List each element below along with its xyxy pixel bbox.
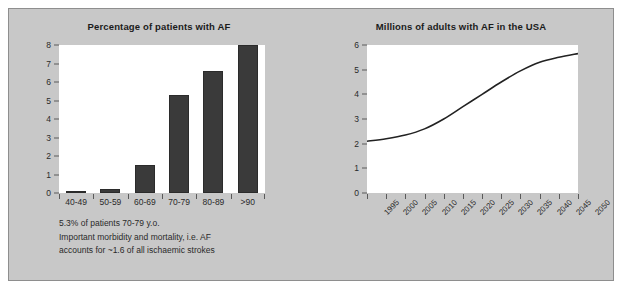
bar-chart-title: Percentage of patients with AF bbox=[9, 21, 309, 32]
line-curve bbox=[367, 54, 578, 142]
line-chart-y-tick-label: 6 bbox=[345, 40, 359, 50]
bar-70-79 bbox=[169, 95, 189, 193]
line-chart-x-tick-label: 1995 bbox=[382, 198, 401, 217]
bar-chart-x-tick-label: 80-89 bbox=[196, 195, 230, 211]
bar-80-89 bbox=[203, 71, 223, 193]
caption-line-1: 5.3% of patients 70-79 y.o. bbox=[59, 217, 299, 231]
bar-chart-plot-area bbox=[59, 45, 265, 193]
bar-chart-y-tick-label: 4 bbox=[37, 114, 51, 124]
line-chart-x-tick bbox=[540, 194, 541, 199]
line-chart-x-tick bbox=[463, 194, 464, 199]
line-chart-x-tick-label: 2000 bbox=[401, 198, 420, 217]
line-chart-x-axis-labels: 1995200020052010201520202025203020352040… bbox=[367, 194, 578, 195]
line-chart-x-tick-label: 2050 bbox=[593, 198, 612, 217]
line-chart-x-tick-label: 2015 bbox=[459, 198, 478, 217]
line-chart-block: Millions of adults with AF in the USA 01… bbox=[307, 9, 615, 282]
bar-chart-x-tick-label: 40-49 bbox=[59, 195, 93, 211]
bar-chart-y-tick-label: 6 bbox=[37, 77, 51, 87]
line-chart-y-tick-label: 4 bbox=[345, 89, 359, 99]
line-chart-x-tick bbox=[425, 194, 426, 199]
line-series bbox=[367, 45, 578, 193]
bar-chart-x-axis-labels: 40-4950-5960-6970-7980-89>90 bbox=[59, 195, 265, 211]
line-chart-y-tick-label: 2 bbox=[345, 139, 359, 149]
line-chart-x-tick bbox=[386, 194, 387, 199]
line-chart-y-tick-label: 0 bbox=[345, 188, 359, 198]
bar-40-49 bbox=[66, 191, 86, 193]
caption-line-2: Important morbidity and mortality, i.e. … bbox=[59, 231, 299, 245]
line-chart-x-tick bbox=[444, 194, 445, 199]
line-chart-y-tick-label: 5 bbox=[345, 65, 359, 75]
line-chart-x-tick-label: 2005 bbox=[421, 198, 440, 217]
line-chart-x-tick-label: 2045 bbox=[574, 198, 593, 217]
bar-chart-block: Percentage of patients with AF 012345678… bbox=[9, 9, 309, 282]
bar-chart-y-axis: 012345678 bbox=[39, 45, 59, 193]
bar-60-69 bbox=[135, 165, 155, 193]
line-chart-x-tick bbox=[501, 194, 502, 199]
line-chart-x-tick-label: 2030 bbox=[516, 198, 535, 217]
line-chart-y-tick-label: 3 bbox=[345, 114, 359, 124]
line-chart-y-axis: 0123456 bbox=[347, 45, 367, 193]
line-chart-plot-area bbox=[367, 45, 578, 193]
bar-chart-y-tick-label: 0 bbox=[37, 188, 51, 198]
line-chart-x-tick bbox=[578, 194, 579, 199]
bar-chart-x-tick-label: 50-59 bbox=[93, 195, 127, 211]
line-chart-title: Millions of adults with AF in the USA bbox=[307, 21, 615, 32]
bar-chart-y-tick-label: 8 bbox=[37, 40, 51, 50]
bar-chart-y-tick-label: 3 bbox=[37, 133, 51, 143]
bar-chart-x-tick-label: >90 bbox=[231, 195, 265, 211]
caption-line-3: accounts for ~1.6 of all ischaemic strok… bbox=[59, 244, 299, 258]
line-chart-x-tick-label: 2040 bbox=[555, 198, 574, 217]
line-chart-x-tick-label: 2010 bbox=[440, 198, 459, 217]
line-chart-x-tick-label: 2025 bbox=[497, 198, 516, 217]
line-chart-x-tick bbox=[559, 194, 560, 199]
bar-series bbox=[59, 45, 265, 193]
bar-chart-y-tick-label: 1 bbox=[37, 170, 51, 180]
bar->90 bbox=[238, 45, 258, 193]
bar-chart-caption: 5.3% of patients 70-79 y.o. Important mo… bbox=[59, 217, 299, 258]
bar-chart-y-tick-label: 2 bbox=[37, 151, 51, 161]
screenshot-root: Percentage of patients with AF 012345678… bbox=[0, 0, 622, 289]
line-chart-x-tick bbox=[482, 194, 483, 199]
bar-chart-y-tick-label: 7 bbox=[37, 59, 51, 69]
bar-chart-x-tick-label: 70-79 bbox=[162, 195, 196, 211]
line-chart-x-tick bbox=[520, 194, 521, 199]
slide-panel: Percentage of patients with AF 012345678… bbox=[8, 8, 614, 281]
line-chart-y-tick-label: 1 bbox=[345, 163, 359, 173]
bar-chart-x-tick-label: 60-69 bbox=[128, 195, 162, 211]
bar-chart-y-tick-label: 5 bbox=[37, 96, 51, 106]
line-chart-x-tick bbox=[367, 194, 368, 199]
bar-50-59 bbox=[100, 189, 120, 193]
line-chart-x-tick-label: 2020 bbox=[478, 198, 497, 217]
line-chart-x-tick-label: 2035 bbox=[536, 198, 555, 217]
line-chart-x-tick bbox=[405, 194, 406, 199]
